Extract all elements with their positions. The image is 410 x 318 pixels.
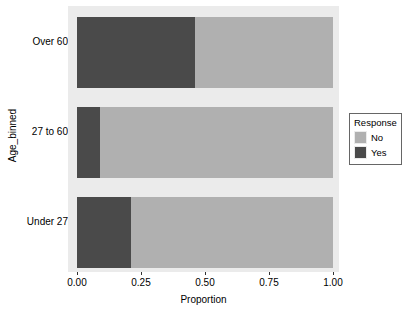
legend-item-label: Yes: [371, 147, 387, 158]
bar-segment-no[interactable]: [195, 17, 333, 88]
x-tick-mark: [205, 272, 206, 275]
x-tick-label: 0.00: [57, 277, 97, 288]
chart-figure: Age_binned Over 60 27 to 60 Under 27: [0, 0, 410, 318]
x-axis-title: Proportion: [68, 294, 339, 305]
legend-item-no[interactable]: No: [354, 130, 397, 145]
table-row[interactable]: [77, 17, 333, 88]
x-tick-label: 0.50: [185, 277, 225, 288]
table-row[interactable]: [77, 197, 333, 268]
x-tick-label: 0.25: [121, 277, 161, 288]
legend-swatch-no-icon: [354, 131, 367, 144]
y-tick-over-60: Over 60: [6, 36, 68, 48]
bar-segment-no[interactable]: [131, 197, 333, 268]
y-tick-label: 27 to 60: [10, 126, 68, 137]
x-tick-mark: [269, 272, 270, 275]
legend-title: Response: [354, 117, 397, 128]
legend-swatch-yes-icon: [354, 146, 367, 159]
legend-item-yes[interactable]: Yes: [354, 145, 397, 160]
y-tick-label: Under 27: [10, 216, 68, 227]
x-tick-mark: [141, 272, 142, 275]
x-tick-mark: [333, 272, 334, 275]
legend: Response No Yes: [349, 113, 402, 165]
y-tick-label: Over 60: [10, 36, 68, 47]
bar-segment-yes[interactable]: [77, 197, 131, 268]
plot-panel: [68, 6, 339, 272]
x-tick-mark: [77, 272, 78, 275]
bar-segment-no[interactable]: [100, 107, 333, 178]
y-tick-27-to-60: 27 to 60: [6, 126, 68, 138]
x-tick-label: 0.75: [249, 277, 289, 288]
x-tick-label: 1.00: [313, 277, 353, 288]
bar-segment-yes[interactable]: [77, 107, 100, 178]
y-tick-under-27: Under 27: [6, 216, 68, 228]
table-row[interactable]: [77, 107, 333, 178]
bar-segment-yes[interactable]: [77, 17, 195, 88]
legend-item-label: No: [371, 132, 383, 143]
